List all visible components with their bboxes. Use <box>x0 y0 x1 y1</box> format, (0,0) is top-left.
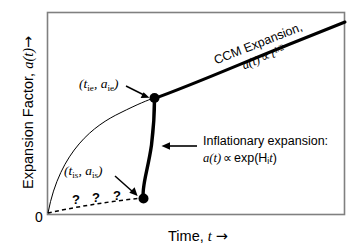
point-is-close-paren: ) <box>98 163 103 178</box>
y-axis-title: Expansion Factor, a(t)→ <box>20 12 37 212</box>
question-mark-2: ? <box>92 190 100 205</box>
expansion-factor-diagram: Expansion Factor, a(t)→ Time, t → 0 (tie… <box>0 0 358 251</box>
x-axis-arrow-icon: → <box>216 228 228 244</box>
ccm-extrapolation-curve <box>48 98 154 213</box>
point-ie-comma: , <box>94 76 101 91</box>
y-axis-title-text: Expansion Factor, <box>20 69 36 189</box>
point-ie-label: (tie, aie) <box>79 76 119 93</box>
inflation-label-law: a(t)∝exp(Hit) <box>203 151 328 167</box>
ccm-law-exponent: 1/2 <box>272 42 286 55</box>
x-axis-title-text: Time, <box>168 228 208 244</box>
inflation-law-close: ) <box>273 151 277 165</box>
inflation-law-exp-open: exp(H <box>234 151 267 165</box>
point-is-a-symbol: a <box>85 163 92 178</box>
question-mark-1: ? <box>72 192 80 207</box>
inflation-label-line1: Inflationary expansion: <box>203 134 328 148</box>
arrow-to-point-ie <box>126 86 150 98</box>
y-axis-title-math: a(t) <box>20 48 36 69</box>
x-axis-title: Time, t → <box>118 228 278 245</box>
marker-point-ie <box>150 93 160 103</box>
inflation-law-a: a(t) <box>203 151 221 165</box>
point-ie-t-subscript: ie <box>87 83 94 93</box>
y-axis-arrow-icon: → <box>20 36 36 48</box>
point-is-label: (tis, ais) <box>64 163 103 180</box>
inflation-expansion-label: Inflationary expansion: a(t)∝exp(Hit) <box>203 134 328 168</box>
question-mark-3: ? <box>113 188 121 203</box>
x-axis-title-math: t <box>208 228 212 244</box>
point-ie-close-paren: ) <box>114 76 119 91</box>
inflationary-expansion-curve <box>143 99 155 199</box>
origin-label: 0 <box>35 209 43 225</box>
arrow-to-inflation-curve <box>162 142 198 150</box>
proportional-icon-2: ∝ <box>221 150 234 165</box>
marker-point-is <box>139 194 149 204</box>
